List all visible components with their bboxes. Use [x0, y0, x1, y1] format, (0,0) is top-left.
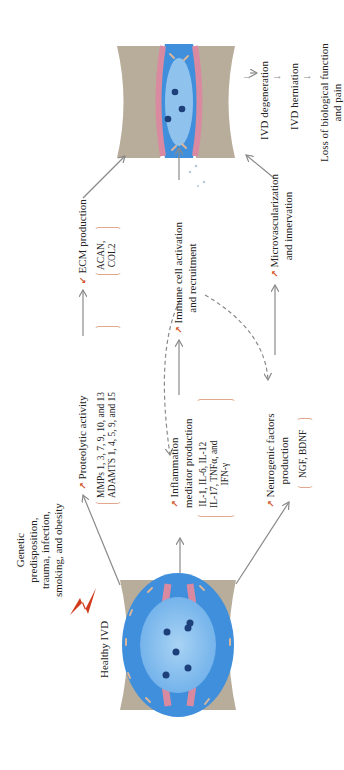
neurogenic-details: NGF, BDNF [298, 430, 309, 478]
increase-arrow-icon: ↗ [269, 270, 282, 278]
risk-factors-text: Genetic predisposition, trauma, infectio… [14, 503, 64, 597]
outcome-ivd-degeneration: IVD degeneration [258, 61, 271, 140]
outcome-ivd-herniation: IVD herniation [288, 63, 301, 130]
healthy-ivd-illustration [120, 573, 236, 717]
down-arrow-icon: ↓ [240, 75, 253, 81]
neurogenic-factors-label: ↗Neurogenic factors production [264, 413, 290, 508]
ecm-details: ACAN, COL2 [96, 241, 118, 270]
proteolytic-details: MMPs 1, 3, 7, 9, 10, and 13 ADAMTS 1, 4,… [96, 392, 118, 498]
decrease-arrow-icon: ↙ [77, 276, 90, 284]
inflammation-details: IL-1, IL-6, IL-12 IL-17, TNFα, and IFN-γ [198, 440, 231, 508]
ecm-production-label: ↙ECM production [76, 199, 90, 284]
down-arrow-icon: ↓ [270, 75, 283, 81]
inflammation-mediator-label: ↗Inflammation mediator production [168, 418, 194, 508]
increase-arrow-icon: ↗ [77, 482, 90, 490]
proteolytic-activity-label: ↗Proteolytic activity [76, 395, 90, 490]
degenerated-ivd-illustration [117, 44, 235, 187]
increase-arrow-icon: ↗ [169, 500, 182, 508]
lightning-bolt-icon [70, 588, 96, 615]
microvascularization-label: ↗Microvascularization and innervation [268, 174, 294, 278]
increase-arrow-icon: ↗ [173, 326, 186, 334]
increase-arrow-icon: ↗ [265, 500, 278, 508]
outcome-loss-of-function: Loss of biological function and pain [318, 43, 343, 162]
ivd-degeneration-diagram: Healthy IVD Genetic predisposition, trau… [0, 0, 344, 770]
down-arrow-icon: ↓ [300, 75, 313, 81]
healthy-ivd-label: Healthy IVD [98, 621, 111, 678]
immune-cell-activation-label: ↗Immune cell activation and recruitment [172, 222, 198, 334]
